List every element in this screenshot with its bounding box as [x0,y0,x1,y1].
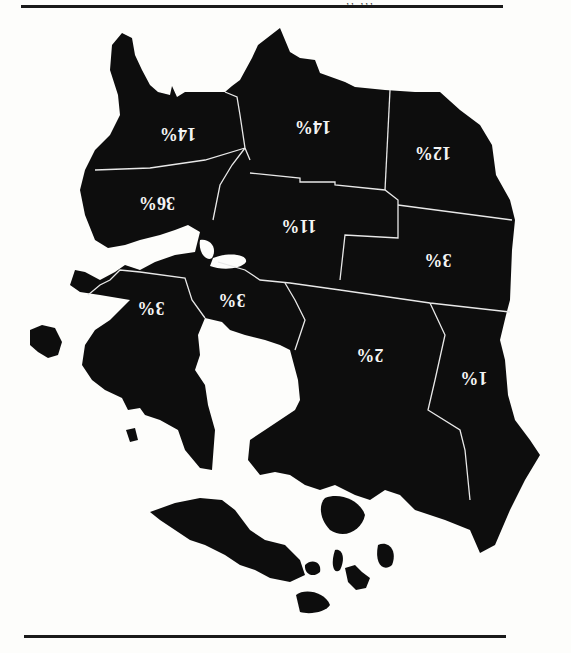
label-northwest-peninsula: 14% [160,124,196,144]
region-map: 14% 14% 12% 36% 11% 3% 3% 3% 2% 1% [0,0,571,653]
landmass [70,28,540,553]
label-southeast: 1% [461,368,488,388]
label-northeast: 12% [415,143,451,163]
label-southwest: 3% [138,298,165,318]
label-south-central-west: 3% [219,290,246,310]
label-south: 2% [357,345,384,365]
document-page: ' ' ' ,, ,,, '' [0,0,571,653]
label-west: 36% [139,193,175,213]
label-central: 11% [281,216,316,236]
bottom-rule [24,635,506,638]
label-north-central: 14% [295,117,331,137]
label-east-central: 3% [425,250,452,270]
